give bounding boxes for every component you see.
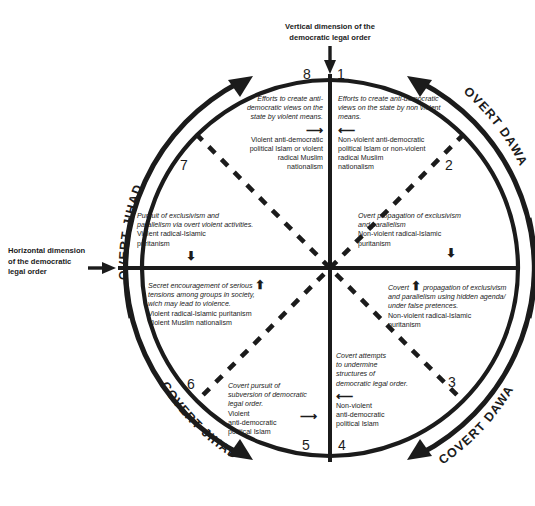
segment-7-body-line1: Violent radical-Islamic [137,230,206,238]
segment-number-7: 7 [180,157,188,173]
segment-2-body-line2: puritanism [358,240,391,248]
segment-6-lead-line3: wich may lead to violence. [148,300,231,308]
segment-3-text: Covert ⬆ propagation of exclusivism and … [388,282,535,330]
label-overt-dawa: OVERT DAWA [461,84,530,168]
segment-number-6: 6 [187,376,195,392]
segment-7-arrow-down-icon: ⬇ [186,252,196,260]
segment-7-body-line2: puritanism [137,240,170,248]
vertical-axis-caption: Vertical dimension of the democratic leg… [212,22,448,43]
segment-3-body-line2: puritanism [388,321,421,329]
segment-4-body-line3: political Islam [336,420,379,428]
segment-6-body-line1: Violent radical-Islamic puritanism [148,310,252,318]
segment-1-text: Efforts to create anti-democratic views … [338,95,462,172]
segment-1-lead-line1: Efforts to create anti-democratic [338,95,439,103]
segment-8-arrow-right-icon: ⟶ [215,126,323,134]
segment-5-body-line1: Violent [228,410,250,418]
segment-1-body-line1: Non-violent anti-democratic [338,136,424,144]
segment-4-arrow-left-icon: ⟵ [336,392,428,400]
segment-3-body-line1: Non-violent radical-Islamic [388,312,471,320]
horizontal-axis-caption-line3: legal order [8,267,47,276]
horizontal-axis-caption-line1: Horizontal dimension [8,246,85,255]
segment-8-body-line4: nationalism [287,163,323,171]
segment-1-lead-line3: means. [338,113,361,121]
segment-6-body-line2: Violent Muslim nationalism [148,319,232,327]
horizontal-axis-caption: Horizontal dimension of the democratic l… [8,246,104,278]
segment-5-lead-line2: subversion of democratic [228,391,307,399]
label-covert-dawa: COVERT DAWA [436,383,516,467]
segment-6-arrow-up-icon: ⬆ [255,281,265,289]
segment-4-lead-line4: democratic legal order. [336,380,408,388]
segment-8-body-line1: Violent anti-democratic [251,136,323,144]
segment-8-lead-line3: state by violent means. [250,113,323,121]
segment-5-arrow-right-icon: ⟶ [300,412,317,420]
segment-5-lead-line1: Covert pursuit of [228,382,280,390]
diagram-canvas: OVERT JIHAD OVERT DAWA COVERT JIHAD COVE… [0,0,535,506]
segment-2-body-line1: Non-violent radical-Islamic [358,230,441,238]
segment-number-4: 4 [338,437,346,453]
segment-3-lead-line1: propagation of exclusivism [423,284,507,292]
segment-6-lead-line2: tensions among groups in society, [148,291,255,299]
segment-number-5: 5 [302,437,310,453]
segment-2-text: Overt propagation of exclusivism and par… [358,212,526,249]
segment-7-text: Pursuit of exclusivism and parallelism v… [137,212,307,249]
segment-number-3: 3 [448,374,456,390]
segment-2-lead-line2: and parallelism [358,221,406,229]
vertical-axis-caption-line2: democratic legal order [289,33,370,42]
segment-8-text: Efforts to create anti- democratic views… [215,95,323,172]
vertical-axis-caption-line1: Vertical dimension of the [285,22,375,31]
segment-1-body-line4: nationalism [338,163,374,171]
segment-1-body-line2: political Islam or non-violent [338,145,426,153]
segment-2-lead-line1: Overt propagation of exclusivism [358,212,461,220]
segment-7-lead-line1: Pursuit of exclusivism and [137,212,219,220]
horizontal-axis-caption-line2: of the democratic [8,257,71,266]
segment-3-lead-line2: and parallelism using hidden agenda/ [388,293,506,301]
segment-4-lead-line3: structures of [336,370,375,378]
segment-6-text: Secret encouragement of serious tensions… [148,282,322,328]
segment-4-lead-line1: Covert attempts [336,352,386,360]
segment-6-lead-line1: Secret encouragement of serious [148,282,253,290]
vertical-axis-arrow [324,46,336,74]
segment-1-lead-line2: views on the state by non violent [338,104,441,112]
segment-8-lead-line2: democratic views on the [247,104,323,112]
segment-1-arrow-left-icon: ⟵ [338,126,462,134]
segment-5-lead-line3: legal order. [228,400,263,408]
segment-3-lead-prefix: Covert [388,284,409,292]
segment-4-body-line1: Non-violent [336,402,372,410]
segment-3-arrow-up-icon: ⬆ [411,279,421,293]
segment-3-lead-line3: under false pretences. [388,302,458,310]
segment-4-body-line2: anti-democratic [336,411,385,419]
segment-1-body-line3: radical Muslim [338,154,383,162]
segment-5-body-line3: political Islam [228,428,271,436]
segment-8-body-line3: radical Muslim [278,154,323,162]
segment-number-8: 8 [303,66,311,82]
segment-4-lead-line2: to undermine [336,361,377,369]
segment-4-text: Covert attempts to undermine structures … [336,352,428,429]
segment-8-body-line2: political Islam or violent [250,145,323,153]
segment-7-lead-line2: parallelism via overt violent activities… [137,221,253,229]
segment-number-1: 1 [337,66,345,82]
segment-8-lead-line1: Efforts to create anti- [257,95,323,103]
segment-2-arrow-down-icon: ⬇ [446,249,456,257]
segment-5-body-line2: anti-democratic [228,419,277,427]
